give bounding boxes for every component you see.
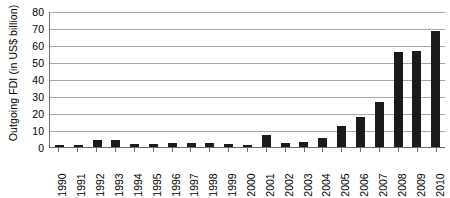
- x-label-slot: 2004: [313, 153, 332, 197]
- x-tick-label: 2007: [378, 173, 389, 196]
- x-label-slot: 1991: [68, 153, 87, 197]
- x-tick-label: 2002: [284, 173, 295, 196]
- bar-slot: [182, 12, 201, 147]
- bar: [281, 143, 290, 147]
- bar-slot: [144, 12, 163, 147]
- x-label-slot: 2005: [332, 153, 351, 197]
- x-tick-mark: [398, 148, 399, 152]
- bar: [243, 145, 252, 147]
- bar: [93, 140, 102, 147]
- fdi-bar-chart: Outgoing FDI (in US$ billion) 0102030405…: [0, 0, 450, 198]
- bar: [356, 117, 365, 147]
- bar: [130, 144, 139, 147]
- bar-slot: [370, 12, 389, 147]
- bar: [299, 142, 308, 147]
- x-tick-label: 2008: [397, 173, 408, 196]
- bar-slot: [238, 12, 257, 147]
- x-label-slot: 2009: [407, 153, 426, 197]
- x-label-slot: 1995: [143, 153, 162, 197]
- x-tick-label: 2009: [416, 173, 427, 196]
- x-tick-label: 2010: [435, 173, 446, 196]
- x-tick-mark: [190, 148, 191, 152]
- y-tick-label: 0: [22, 143, 44, 153]
- x-axis-labels: 1990199119921993199419951996199719981999…: [49, 153, 445, 197]
- x-tick-label: 2000: [246, 173, 257, 196]
- x-label-slot: 2003: [294, 153, 313, 197]
- x-label-slot: 2000: [238, 153, 257, 197]
- bar: [262, 135, 271, 147]
- x-tick-label: 1998: [208, 173, 219, 196]
- x-tick-mark: [304, 148, 305, 152]
- x-tick-label: 1991: [76, 173, 87, 196]
- y-tick-label: 60: [22, 41, 44, 51]
- x-label-slot: 1994: [124, 153, 143, 197]
- bar-slot: [201, 12, 220, 147]
- bar-slot: [313, 12, 332, 147]
- bar-slot: [332, 12, 351, 147]
- x-tick-label: 1996: [171, 173, 182, 196]
- x-tick-mark: [77, 148, 78, 152]
- bar-slot: [88, 12, 107, 147]
- bar-slot: [295, 12, 314, 147]
- bar-slot: [125, 12, 144, 147]
- x-tick-mark: [228, 148, 229, 152]
- x-label-slot: 1999: [219, 153, 238, 197]
- x-tick-mark: [322, 148, 323, 152]
- x-tick-mark: [341, 148, 342, 152]
- bar-slot: [219, 12, 238, 147]
- x-tick-mark: [379, 148, 380, 152]
- bar: [111, 140, 120, 147]
- x-tick-mark: [209, 148, 210, 152]
- bar: [431, 31, 440, 147]
- bar: [318, 138, 327, 147]
- bar: [149, 144, 158, 147]
- x-tick-mark: [172, 148, 173, 152]
- y-tick-label: 50: [22, 58, 44, 68]
- bar: [412, 51, 421, 147]
- x-tick-label: 1992: [95, 173, 106, 196]
- x-label-slot: 1990: [49, 153, 68, 197]
- x-label-slot: 2006: [351, 153, 370, 197]
- bar-slot: [426, 12, 445, 147]
- x-tick-label: 2001: [265, 173, 276, 196]
- bar-series: [50, 12, 445, 147]
- x-label-slot: 1996: [162, 153, 181, 197]
- x-tick-mark: [436, 148, 437, 152]
- x-label-slot: 2001: [256, 153, 275, 197]
- y-tick-label: 10: [22, 126, 44, 136]
- x-tick-mark: [153, 148, 154, 152]
- bar-slot: [351, 12, 370, 147]
- x-label-slot: 1998: [200, 153, 219, 197]
- bar: [337, 126, 346, 147]
- y-axis-title-text: Outgoing FDI (in US$ billion): [7, 5, 19, 142]
- bar: [375, 102, 384, 147]
- x-tick-mark: [96, 148, 97, 152]
- bar-slot: [389, 12, 408, 147]
- x-tick-label: 1994: [133, 173, 144, 196]
- bar-slot: [257, 12, 276, 147]
- x-tick-label: 1995: [152, 173, 163, 196]
- y-tick-label: 30: [22, 92, 44, 102]
- bar: [55, 145, 64, 147]
- y-tick-label: 70: [22, 24, 44, 34]
- x-tick-label: 2006: [359, 173, 370, 196]
- bar: [187, 143, 196, 147]
- bar-slot: [106, 12, 125, 147]
- x-label-slot: 1997: [181, 153, 200, 197]
- x-label-slot: 2010: [426, 153, 445, 197]
- y-tick-label: 40: [22, 75, 44, 85]
- x-tick-label: 1993: [114, 173, 125, 196]
- x-tick-label: 2005: [340, 173, 351, 196]
- x-tick-label: 1997: [189, 173, 200, 196]
- x-tick-mark: [360, 148, 361, 152]
- plot-area: [49, 12, 445, 148]
- x-tick-mark: [58, 148, 59, 152]
- x-tick-label: 1990: [57, 173, 68, 196]
- bar: [168, 143, 177, 147]
- x-label-slot: 1993: [106, 153, 125, 197]
- x-label-slot: 2002: [275, 153, 294, 197]
- x-tick-mark: [134, 148, 135, 152]
- x-tick-mark: [417, 148, 418, 152]
- x-tick-mark: [266, 148, 267, 152]
- y-axis-ticks: 01020304050607080: [22, 6, 44, 148]
